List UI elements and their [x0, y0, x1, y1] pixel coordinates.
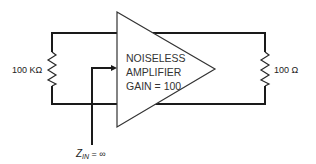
amplifier-label-line3: GAIN = 100 — [126, 80, 181, 92]
amplifier-label-line2: AMPLIFIER — [126, 66, 182, 78]
left-resistor-label: 100 KΩ — [12, 65, 43, 75]
amplifier-label-line1: NOISELESS — [126, 52, 186, 64]
right-resistor-icon — [261, 52, 269, 86]
right-resistor-label: 100 Ω — [274, 65, 299, 75]
input-arrow-icon — [111, 65, 117, 71]
left-resistor-icon — [48, 52, 56, 86]
input-wire — [92, 68, 112, 145]
input-impedance-label: ZIN = ∞ — [75, 148, 106, 160]
zin-value: = ∞ — [89, 149, 106, 159]
circuit-diagram: 100 KΩ 100 Ω NOISELESS AMPLIFIER GAIN = … — [0, 0, 316, 164]
